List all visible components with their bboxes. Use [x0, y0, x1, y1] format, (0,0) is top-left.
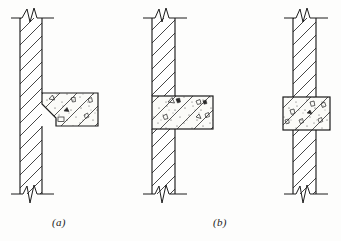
- detail-a-wall: [20, 18, 42, 194]
- detail-b-left-group: [143, 8, 213, 203]
- detail-b-left-beam: [152, 96, 213, 129]
- detail-b-right-group: [283, 8, 330, 203]
- figure-caption-a: (a): [52, 216, 66, 228]
- figure-caption-b: (b): [213, 216, 227, 228]
- detail-a-beam: [42, 93, 98, 126]
- drawing-canvas: (a) (b): [0, 0, 341, 241]
- detail-b-right-beam: [283, 97, 330, 130]
- detail-a-group: [11, 8, 98, 203]
- technical-drawing-svg: [0, 0, 341, 241]
